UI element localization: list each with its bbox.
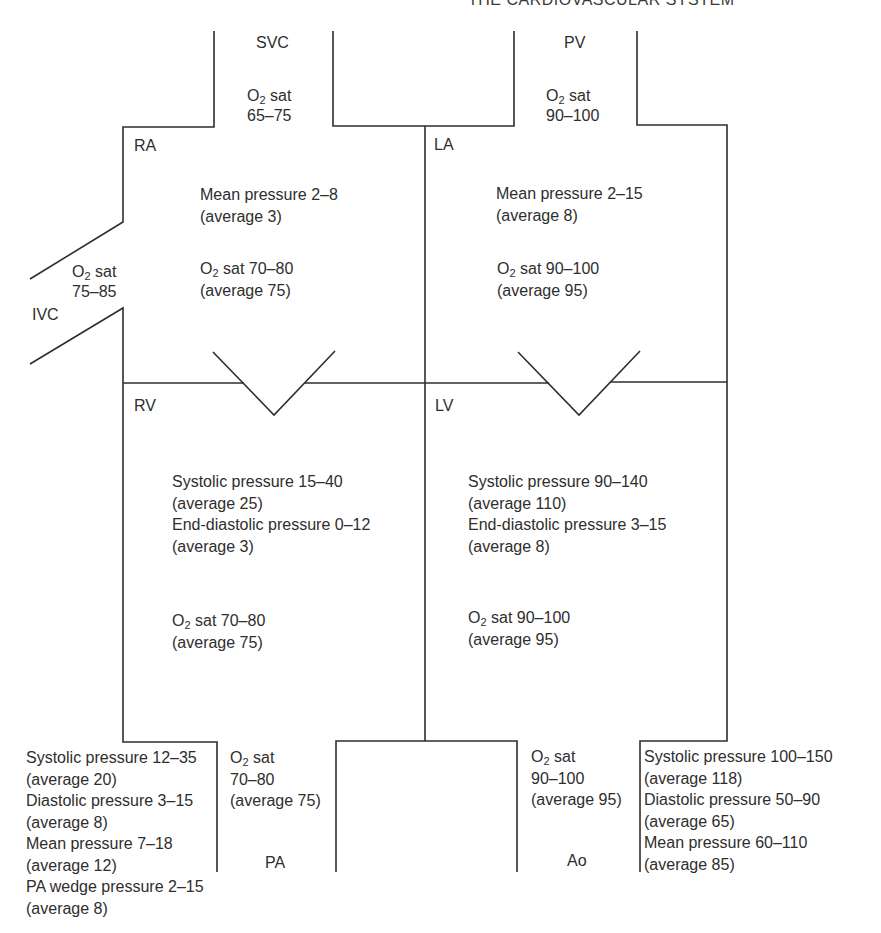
ao-label: Ao: [567, 851, 587, 871]
ivc-label: IVC: [32, 305, 59, 325]
lv-label: LV: [435, 396, 453, 416]
rv-label: RV: [134, 396, 156, 416]
lv-pressures: Systolic pressure 90–140 (average 110) E…: [468, 471, 666, 557]
rv-pressures: Systolic pressure 15–40 (average 25) End…: [172, 471, 370, 557]
pa-ao-wall: [336, 741, 517, 872]
ra-label: RA: [134, 136, 156, 156]
svc-left-wall: [30, 31, 214, 279]
ra-o2-sat: O2 sat 70–80 (average 75): [200, 258, 293, 301]
svc-o2-sat: O2 sat 65–75: [247, 86, 292, 126]
svc-right-wall: [333, 31, 514, 126]
ivc-o2-sat: O2 sat 75–85: [72, 262, 117, 302]
la-label: LA: [434, 135, 454, 155]
la-o2-sat: O2 sat 90–100 (average 95): [497, 258, 599, 301]
svc-label: SVC: [256, 33, 289, 53]
pa-o2-sat: O2 sat 70–80 (average 75): [230, 747, 321, 812]
pv-o2-sat: O2 sat 90–100: [546, 86, 599, 126]
la-pressure: Mean pressure 2–15 (average 8): [496, 183, 643, 226]
ao-pressures: Systolic pressure 100–150 (average 118) …: [644, 746, 833, 875]
pv-label: PV: [564, 33, 585, 53]
rv-o2-sat: O2 sat 70–80 (average 75): [172, 610, 265, 653]
ao-o2-sat: O2 sat 90–100 (average 95): [531, 746, 622, 811]
pa-pressures: Systolic pressure 12–35 (average 20) Dia…: [26, 747, 204, 919]
pa-label: PA: [265, 853, 285, 873]
ra-pressure: Mean pressure 2–8 (average 3): [200, 184, 338, 227]
lv-o2-sat: O2 sat 90–100 (average 95): [468, 607, 570, 650]
